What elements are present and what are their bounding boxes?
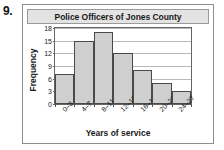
x-axis-title: Years of service xyxy=(22,128,214,138)
plot-area: 03691215180–34–78–1112–1516–1920–2324–27 xyxy=(54,27,192,105)
y-axis-tick-mark xyxy=(53,66,55,67)
y-axis-title-label: Frequency xyxy=(28,49,38,92)
x-axis-tick-mark xyxy=(172,104,173,107)
histogram-bar xyxy=(94,32,113,104)
histogram-bar xyxy=(55,74,74,104)
y-axis-tick-label: 6 xyxy=(48,75,52,82)
y-axis-tick-label: 0 xyxy=(48,101,52,108)
x-axis-tick-mark xyxy=(191,104,192,107)
x-axis-tick-mark xyxy=(113,104,114,107)
y-axis-tick-label: 3 xyxy=(48,88,52,95)
y-axis-tick-label: 12 xyxy=(44,50,52,57)
y-axis-tick-label: 18 xyxy=(44,25,52,32)
chart-title-banner: Police Officers of Jones County xyxy=(27,9,209,24)
x-axis-tick-mark xyxy=(55,104,56,107)
chart-title: Police Officers of Jones County xyxy=(55,12,182,22)
y-axis-title: Frequency xyxy=(26,38,39,102)
y-axis-tick-label: 15 xyxy=(44,37,52,44)
y-axis-tick-label: 9 xyxy=(48,63,52,70)
x-axis-tick-mark xyxy=(152,104,153,107)
gridline xyxy=(55,28,191,29)
y-axis-tick-mark xyxy=(53,53,55,54)
problem-number: 9. xyxy=(3,4,12,18)
y-axis-tick-mark xyxy=(53,41,55,42)
plot-inner: 03691215180–34–78–1112–1516–1920–2324–27 xyxy=(55,28,191,104)
histogram-bar xyxy=(74,41,93,104)
x-axis-tick-mark xyxy=(74,104,75,107)
x-axis-tick-mark xyxy=(133,104,134,107)
x-axis-tick-mark xyxy=(94,104,95,107)
y-axis-tick-mark xyxy=(53,28,55,29)
